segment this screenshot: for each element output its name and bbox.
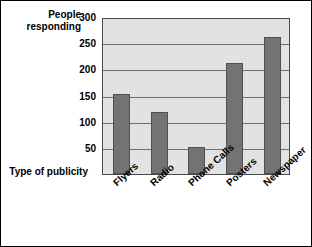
y-tick-250: 250: [60, 39, 96, 49]
y-tick-200: 200: [60, 65, 96, 75]
y-tick-100: 100: [60, 118, 96, 128]
bar-slot: [141, 19, 179, 174]
bar-slot: [103, 19, 141, 174]
x-axis-title: Type of publicity: [3, 166, 88, 178]
bar-posters[interactable]: [226, 63, 243, 174]
plot-area: [102, 18, 290, 175]
bar-slot: [253, 19, 291, 174]
bar-flyers[interactable]: [113, 94, 130, 174]
y-tick-300: 300: [60, 13, 96, 23]
bar-newspaper[interactable]: [264, 37, 281, 174]
bar-series: [103, 19, 289, 174]
y-tick-50: 50: [60, 144, 96, 154]
y-tick-150: 150: [60, 92, 96, 102]
bar-chart-figure: People responding Type of publicity 300 …: [0, 0, 312, 247]
bar-slot: [178, 19, 216, 174]
